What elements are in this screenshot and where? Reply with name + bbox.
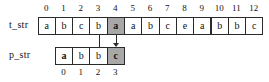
pattern-cell-0: a	[55, 47, 73, 65]
pattern-row-index-3: 3	[107, 67, 124, 78]
text-cell-2: c	[72, 17, 90, 35]
text-row-index-12: 12	[245, 3, 262, 14]
text-cell-5: a	[124, 17, 142, 35]
text-row-index-0: 0	[38, 3, 55, 14]
text-cell-4: a	[107, 17, 125, 35]
text-cell-0: a	[38, 17, 56, 35]
text-cell-12: c	[245, 17, 263, 35]
text-row-index-9: 9	[193, 3, 210, 14]
pattern-cell-1: b	[72, 47, 90, 65]
pattern-row-index-track: 0123	[0, 67, 269, 78]
pattern-cell-3: c	[107, 47, 125, 65]
text-cell-1: b	[55, 17, 73, 35]
pattern-row-index-1: 1	[72, 67, 89, 78]
pattern-row-cell-track: abbc	[0, 47, 269, 65]
text-cell-6: b	[141, 17, 159, 35]
text-row-index-3: 3	[89, 3, 106, 14]
text-row-index-5: 5	[124, 3, 141, 14]
pattern-cell-2: b	[89, 47, 107, 65]
text-row-cell-track: abcbaabceabbc	[0, 17, 269, 35]
text-cell-3: b	[89, 17, 107, 35]
mismatch-arrow	[116, 35, 117, 43]
string-alignment-figure: t_str p_str 0123456789101112 abcbaabceab…	[0, 0, 269, 82]
text-cell-8: e	[176, 17, 194, 35]
text-row-index-8: 8	[176, 3, 193, 14]
text-row-index-10: 10	[211, 3, 228, 14]
text-row-index-6: 6	[141, 3, 158, 14]
text-row-index-track: 0123456789101112	[0, 3, 269, 14]
text-row-index-2: 2	[72, 3, 89, 14]
text-cell-7: c	[159, 17, 177, 35]
pattern-row-index-2: 2	[89, 67, 106, 78]
match-line	[99, 35, 100, 47]
text-row-index-4: 4	[107, 3, 124, 14]
text-row-index-1: 1	[55, 3, 72, 14]
text-cell-9: a	[193, 17, 211, 35]
text-cell-11: b	[228, 17, 246, 35]
text-row-index-7: 7	[159, 3, 176, 14]
text-cell-10: b	[211, 17, 229, 35]
text-row-index-11: 11	[228, 3, 245, 14]
mismatch-arrow-head	[113, 43, 119, 47]
pattern-row-index-0: 0	[55, 67, 72, 78]
